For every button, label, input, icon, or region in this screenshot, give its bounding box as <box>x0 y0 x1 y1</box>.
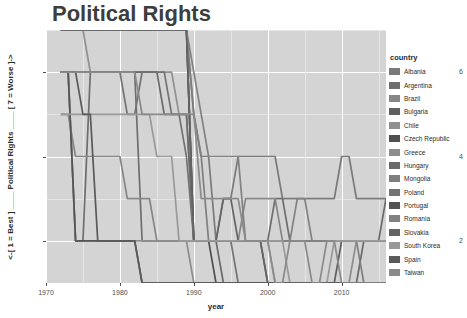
legend-item[interactable]: Czech Republic <box>389 132 467 145</box>
legend-color-swatch <box>389 269 400 276</box>
legend-item-label: Albania <box>404 68 426 75</box>
legend-color-swatch <box>389 82 400 89</box>
legend-item-label: Chile <box>404 122 419 129</box>
x-axis-tick-mark <box>120 283 121 286</box>
legend-item[interactable]: Mongolia <box>389 172 467 185</box>
legend-color-swatch <box>389 95 400 102</box>
legend: country AlbaniaArgentinaBrazilBulgariaCh… <box>389 53 467 279</box>
x-axis-tick-label: 2000 <box>253 289 283 296</box>
legend-item[interactable]: Romania <box>389 212 467 225</box>
y-axis-title-container: <-[ 1 = Best ] ____ Political Rights ___… <box>0 30 20 283</box>
legend-color-swatch <box>389 175 400 182</box>
legend-color-swatch <box>389 108 400 115</box>
legend-color-swatch <box>389 202 400 209</box>
series-line <box>61 30 386 241</box>
legend-item-label: Portugal <box>404 202 428 209</box>
x-axis-tick-mark <box>342 283 343 286</box>
legend-title: country <box>390 53 467 62</box>
series-lines <box>46 30 386 283</box>
legend-item[interactable]: Portugal <box>389 199 467 212</box>
legend-item[interactable]: Chile <box>389 119 467 132</box>
legend-item[interactable]: Taiwan <box>389 266 467 279</box>
legend-item-label: Bulgaria <box>404 108 428 115</box>
legend-color-swatch <box>389 68 400 75</box>
legend-item[interactable]: Greece <box>389 145 467 158</box>
legend-item-label: Taiwan <box>404 269 424 276</box>
legend-color-swatch <box>389 135 400 142</box>
x-axis-title: year <box>46 302 386 311</box>
legend-item[interactable]: South Korea <box>389 239 467 252</box>
legend-item[interactable]: Argentina <box>389 78 467 91</box>
legend-item[interactable]: Brazil <box>389 92 467 105</box>
legend-item-label: Argentina <box>404 82 432 89</box>
series-line <box>61 30 386 241</box>
legend-color-swatch <box>389 162 400 169</box>
legend-item[interactable]: Poland <box>389 186 467 199</box>
legend-item[interactable]: Slovakia <box>389 226 467 239</box>
legend-items: AlbaniaArgentinaBrazilBulgariaChileCzech… <box>389 65 467 279</box>
legend-color-swatch <box>389 149 400 156</box>
x-axis-tick-label: 2010 <box>327 289 357 296</box>
x-axis-tick-label: 1970 <box>31 289 61 296</box>
legend-color-swatch <box>389 229 400 236</box>
legend-item-label: Mongolia <box>404 175 430 182</box>
x-axis-tick-label: 1980 <box>105 289 135 296</box>
legend-item[interactable]: Hungary <box>389 159 467 172</box>
legend-item-label: Czech Republic <box>404 135 450 142</box>
x-axis-tick-mark <box>46 283 47 286</box>
legend-item[interactable]: Bulgaria <box>389 105 467 118</box>
plot-panel <box>46 30 386 283</box>
legend-color-swatch <box>389 122 400 129</box>
legend-item-label: Hungary <box>404 162 429 169</box>
legend-color-swatch <box>389 242 400 249</box>
legend-item[interactable]: Albania <box>389 65 467 78</box>
x-axis-tick-label: 1990 <box>179 289 209 296</box>
legend-item[interactable]: Spain <box>389 252 467 265</box>
legend-color-swatch <box>389 256 400 263</box>
legend-item-label: Brazil <box>404 95 420 102</box>
x-axis-tick-mark <box>194 283 195 286</box>
y-axis-title: <-[ 1 = Best ] ____ Political Rights ___… <box>6 54 15 259</box>
legend-item-label: Slovakia <box>404 229 429 236</box>
legend-item-label: Romania <box>404 215 430 222</box>
legend-color-swatch <box>389 215 400 222</box>
legend-item-label: Poland <box>404 189 424 196</box>
chart-root: Political Rights <-[ 1 = Best ] ____ Pol… <box>0 0 467 318</box>
legend-item-label: Greece <box>404 149 425 156</box>
legend-color-swatch <box>389 189 400 196</box>
x-axis-tick-mark <box>268 283 269 286</box>
legend-item-label: Spain <box>404 256 421 263</box>
page-title: Political Rights <box>52 1 211 27</box>
legend-item-label: South Korea <box>404 242 440 249</box>
